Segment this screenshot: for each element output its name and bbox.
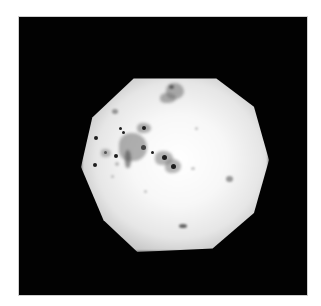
cell-nucleus (162, 155, 167, 160)
speck (226, 176, 233, 182)
speck (144, 190, 147, 193)
cell-nucleus (104, 151, 107, 154)
speck (169, 85, 174, 89)
speck (115, 162, 119, 166)
cell-nucleus (142, 126, 146, 130)
speck (195, 127, 198, 130)
speck (111, 175, 114, 178)
speck (112, 109, 118, 114)
speck (191, 167, 195, 170)
speck (179, 224, 187, 228)
cell-nucleus (141, 145, 146, 150)
cell-nucleus (151, 151, 154, 154)
cell-nucleus (94, 136, 98, 140)
cell-nucleus (122, 131, 125, 134)
cell-stalk (125, 150, 131, 168)
cell-nucleus (119, 127, 122, 130)
cell-nucleus (93, 163, 97, 167)
cell-nucleus (114, 154, 118, 158)
cell-nucleus (171, 164, 176, 169)
cell-cluster-top-2 (160, 93, 176, 103)
micrograph-frame (19, 17, 307, 295)
